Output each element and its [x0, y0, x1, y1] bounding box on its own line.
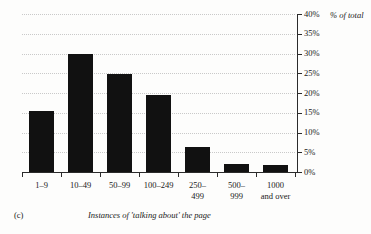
- y-axis-tick: [298, 172, 302, 173]
- x-axis-tick: [61, 173, 62, 177]
- bar: [185, 147, 210, 172]
- x-axis-tick: [178, 173, 179, 177]
- bar-slot: [100, 14, 139, 172]
- x-axis-tick-label-line: 499: [178, 191, 217, 202]
- panel-label: (c): [14, 210, 23, 220]
- y-axis-tick-label: 15%: [304, 108, 320, 117]
- y-axis-title: % of total: [330, 10, 364, 20]
- x-axis-tick-label-line: and over: [256, 191, 295, 202]
- x-axis-tick-label: 100–249: [139, 180, 178, 191]
- x-axis-tick-label: 10–49: [61, 180, 100, 191]
- y-axis-tick-label: 35%: [304, 29, 320, 38]
- x-axis-tick: [139, 173, 140, 177]
- y-axis-tick: [298, 14, 302, 15]
- y-axis-tick: [298, 34, 302, 35]
- x-axis-tick-label: 250–499: [178, 180, 217, 201]
- bar: [68, 54, 93, 173]
- x-axis-tick-label: 500–999: [217, 180, 256, 201]
- y-axis-tick: [298, 152, 302, 153]
- bar: [146, 95, 171, 172]
- x-axis-caption: Instances of 'talking about' the page: [88, 210, 211, 220]
- y-axis-tick: [298, 133, 302, 134]
- x-axis-tick-label: 1–9: [22, 180, 61, 191]
- x-axis-tick-label-line: 1000: [256, 180, 295, 191]
- x-axis-tick-label-line: 50–99: [100, 180, 139, 191]
- bar-slot: [139, 14, 178, 172]
- bar-slot: [22, 14, 61, 172]
- bar-slot: [217, 14, 256, 172]
- x-axis-tick-label-line: 1–9: [22, 180, 61, 191]
- y-axis-tick: [298, 73, 302, 74]
- x-axis-tick-label: 50–99: [100, 180, 139, 191]
- y-axis-tick-label: 25%: [304, 69, 320, 78]
- bar: [29, 111, 54, 172]
- x-axis-tick: [22, 173, 23, 177]
- y-axis-tick: [298, 54, 302, 55]
- x-axis-tick-label: 1000and over: [256, 180, 295, 201]
- x-axis-tick: [100, 173, 101, 177]
- y-axis-tick-label: 20%: [304, 89, 320, 98]
- x-axis-tick-label-line: 999: [217, 191, 256, 202]
- x-axis-tick-label-line: 250–: [178, 180, 217, 191]
- x-axis-tick: [256, 173, 257, 177]
- y-axis-tick-label: 30%: [304, 49, 320, 58]
- bar: [263, 165, 288, 172]
- x-axis-tick: [295, 173, 296, 177]
- x-axis-tick: [217, 173, 218, 177]
- bar: [224, 164, 249, 172]
- x-axis-tick-label-line: 500–: [217, 180, 256, 191]
- plot-area: [22, 14, 295, 172]
- y-axis-tick-label: 10%: [304, 128, 320, 137]
- y-axis-tick-label: 0%: [304, 168, 315, 177]
- y-axis-tick-label: 40%: [304, 10, 320, 19]
- bar: [107, 74, 132, 172]
- y-axis-tick: [298, 113, 302, 114]
- x-axis-tick-label-line: 10–49: [61, 180, 100, 191]
- bar-slot: [61, 14, 100, 172]
- y-axis-tick-label: 5%: [304, 148, 315, 157]
- bar-slot: [256, 14, 295, 172]
- y-axis-tick: [298, 93, 302, 94]
- bar-slot: [178, 14, 217, 172]
- bar-chart-figure: 0%5%10%15%20%25%30%35%40% % of total 1–9…: [0, 0, 371, 234]
- x-axis-tick-label-line: 100–249: [139, 180, 178, 191]
